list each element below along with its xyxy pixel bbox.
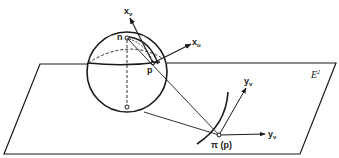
label-y-v-upper: yv [244, 76, 253, 87]
label-y-v-lower: yv [268, 129, 277, 140]
label-n: n [117, 32, 123, 42]
vector-y-v-upper [219, 88, 246, 135]
label-x-v: xv [124, 6, 133, 17]
label-pi-p: π (p) [211, 140, 232, 150]
coordinate-curve-in-plane [197, 92, 228, 144]
point-pi-p [217, 133, 221, 137]
label-plane-e2: E2 [310, 69, 320, 80]
south-pole-point [125, 105, 129, 109]
stereographic-projection-diagram: xv xu n p yv yv π (p) E2 [0, 0, 339, 158]
sphere [87, 32, 167, 112]
plane-e2 [4, 63, 336, 154]
vector-y-v-lower [219, 134, 265, 135]
latitude-back-arc [88, 49, 162, 63]
label-x-u: xu [192, 37, 201, 48]
label-p: p [147, 65, 153, 75]
